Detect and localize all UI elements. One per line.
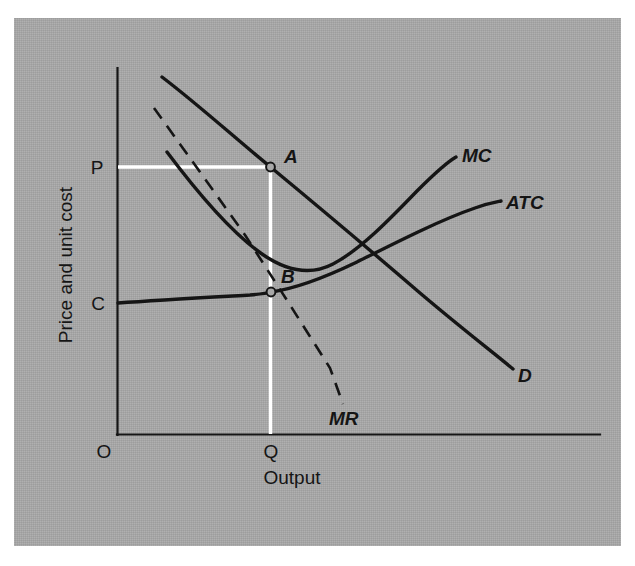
point-a-marker <box>266 163 275 172</box>
point-a-label: A <box>283 146 298 167</box>
curve-d <box>162 77 513 369</box>
figure-container: A B MC ATC D MR P C O Q Output Price and… <box>0 0 635 566</box>
curve-label-d: D <box>518 365 532 386</box>
x-tick-label-q: Q <box>264 441 279 462</box>
curve-label-mr: MR <box>329 408 359 429</box>
y-tick-label-c: C <box>91 293 105 314</box>
point-b-label: B <box>281 266 295 287</box>
d-path <box>162 77 513 369</box>
x-axis-title: Output <box>263 467 321 488</box>
curve-label-mc: MC <box>462 145 492 166</box>
economics-diagram-svg: A B MC ATC D MR P C O Q Output Price and… <box>0 0 635 566</box>
curve-mr <box>154 108 343 404</box>
curve-mc <box>167 152 456 270</box>
mr-path <box>154 108 343 404</box>
curve-atc <box>118 201 501 303</box>
y-axis-title: Price and unit cost <box>55 186 76 343</box>
point-b-marker <box>267 288 276 297</box>
curve-label-atc: ATC <box>505 192 544 213</box>
origin-label: O <box>97 441 112 462</box>
y-tick-label-p: P <box>91 157 104 178</box>
mc-path <box>167 152 456 270</box>
atc-path <box>118 201 501 303</box>
